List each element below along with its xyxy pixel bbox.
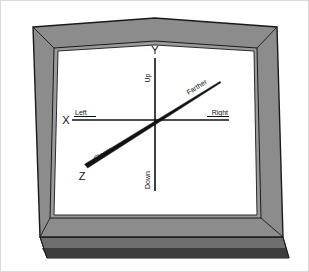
x-axis-negative-label: Left xyxy=(75,109,87,116)
y-axis-negative-label: Down xyxy=(144,171,151,189)
x-axis-letter: X xyxy=(62,114,70,126)
z-axis-letter: Z xyxy=(79,170,86,182)
figure-root: Y X Z Up Down Left Right Farther Closer xyxy=(0,0,309,272)
y-axis-positive-label: Up xyxy=(144,73,152,82)
y-axis-letter: Y xyxy=(151,44,159,56)
picture-frame xyxy=(33,18,289,258)
frame-bottom-shadow-strip xyxy=(42,248,289,258)
framed-axes-illustration: Y X Z Up Down Left Right Farther Closer xyxy=(0,0,309,272)
x-axis-positive-label: Right xyxy=(212,109,228,117)
